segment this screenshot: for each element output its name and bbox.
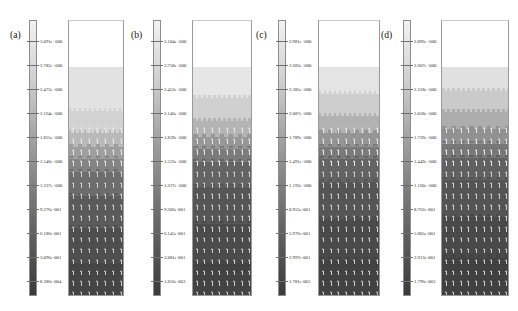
velocity-arrow: [212, 260, 213, 265]
velocity-arrow: [105, 271, 106, 276]
velocity-arrow: [212, 183, 213, 188]
colorbar-tickmark: [401, 113, 413, 114]
velocity-arrow: [461, 260, 462, 265]
velocity-arrow: [97, 271, 98, 276]
colorbar-tick-label: 8.386e-004: [40, 278, 61, 283]
velocity-arrow: [476, 129, 477, 134]
velocity-arrow: [499, 260, 500, 265]
velocity-arrow: [354, 216, 355, 221]
velocity-arrow: [234, 172, 235, 177]
colorbar-tickmark: [401, 185, 413, 186]
velocity-arrow: [219, 271, 220, 276]
velocity-arrow: [73, 282, 74, 287]
velocity-arrow: [369, 260, 370, 265]
velocity-arrow: [323, 216, 324, 221]
velocity-arrow: [369, 216, 370, 221]
velocity-arrow: [453, 205, 454, 210]
velocity-arrow: [499, 205, 500, 210]
velocity-arrow: [212, 205, 213, 210]
velocity-arrow: [197, 183, 198, 188]
velocity-arrow: [362, 161, 363, 166]
colorbar-tickmark: [27, 89, 39, 90]
velocity-arrow: [234, 271, 235, 276]
velocity-arrow: [227, 282, 228, 287]
velocity-arrow: [113, 129, 114, 134]
velocity-arrow: [354, 205, 355, 210]
velocity-arrow: [362, 183, 363, 188]
velocity-arrow: [197, 129, 198, 134]
velocity-arrow: [219, 172, 220, 177]
velocity-arrow: [468, 205, 469, 210]
velocity-arrow: [73, 238, 74, 243]
velocity-arrow: [89, 205, 90, 210]
velocity-arrow: [369, 227, 370, 232]
velocity-arrow: [219, 194, 220, 199]
velocity-arrow: [506, 183, 507, 188]
velocity-arrow: [121, 129, 122, 134]
velocity-arrow: [234, 161, 235, 166]
velocity-arrow: [331, 227, 332, 232]
velocity-arrow: [354, 194, 355, 199]
velocity-arrow: [491, 150, 492, 155]
velocity-arrow: [242, 183, 243, 188]
velocity-arrow: [105, 140, 106, 145]
velocity-arrow: [338, 271, 339, 276]
velocity-arrow: [446, 183, 447, 188]
scalar-field: [69, 67, 123, 296]
velocity-arrow: [468, 129, 469, 134]
velocity-arrow: [369, 238, 370, 243]
velocity-arrow: [491, 260, 492, 265]
velocity-arrow: [377, 227, 378, 232]
velocity-arrow: [377, 161, 378, 166]
velocity-arrow: [491, 249, 492, 254]
velocity-arrow: [331, 150, 332, 155]
velocity-arrow: [499, 293, 500, 296]
velocity-arrow: [377, 216, 378, 221]
colorbar-tickmark: [401, 233, 413, 234]
velocity-arrow: [219, 183, 220, 188]
velocity-arrow: [484, 293, 485, 296]
velocity-arrow: [369, 249, 370, 254]
colorbar-tick-label: 3.081e-001: [164, 254, 185, 259]
velocity-arrow: [197, 205, 198, 210]
velocity-arrow: [331, 238, 332, 243]
velocity-arrow: [461, 227, 462, 232]
velocity-arrow: [97, 238, 98, 243]
velocity-arrow: [121, 194, 122, 199]
velocity-arrow: [212, 282, 213, 287]
velocity-vector-field: [69, 67, 123, 296]
velocity-arrow: [212, 238, 213, 243]
velocity-arrow: [506, 271, 507, 276]
velocity-arrow: [499, 161, 500, 166]
velocity-arrow: [338, 282, 339, 287]
velocity-arrow: [212, 140, 213, 145]
velocity-arrow: [331, 205, 332, 210]
velocity-arrow: [377, 129, 378, 134]
velocity-arrow: [346, 172, 347, 177]
velocity-arrow: [468, 227, 469, 232]
velocity-arrow: [242, 150, 243, 155]
velocity-arrow: [113, 271, 114, 276]
velocity-arrow: [484, 150, 485, 155]
velocity-arrow: [249, 150, 250, 155]
velocity-arrow: [377, 183, 378, 188]
velocity-arrow: [446, 161, 447, 166]
velocity-arrow: [506, 293, 507, 296]
velocity-arrow: [227, 271, 228, 276]
velocity-arrow: [453, 194, 454, 199]
velocity-arrow: [476, 194, 477, 199]
velocity-arrow: [354, 161, 355, 166]
velocity-arrow: [354, 183, 355, 188]
velocity-arrow: [323, 249, 324, 254]
velocity-arrow: [197, 194, 198, 199]
velocity-arrow: [362, 238, 363, 243]
velocity-arrow: [323, 260, 324, 265]
velocity-arrow: [484, 140, 485, 145]
velocity-arrow: [331, 172, 332, 177]
velocity-arrow: [234, 227, 235, 232]
velocity-arrow: [338, 129, 339, 134]
velocity-arrow: [476, 227, 477, 232]
velocity-arrow: [234, 129, 235, 134]
velocity-arrow: [446, 227, 447, 232]
velocity-arrow: [323, 161, 324, 166]
